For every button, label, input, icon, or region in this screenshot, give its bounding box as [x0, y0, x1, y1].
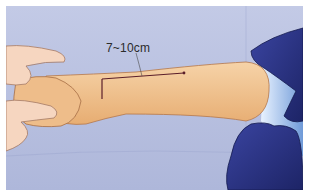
forearm-illustration — [6, 6, 303, 190]
medical-illustration: 7~10cm — [6, 6, 303, 190]
measurement-label: 7~10cm — [106, 41, 150, 55]
